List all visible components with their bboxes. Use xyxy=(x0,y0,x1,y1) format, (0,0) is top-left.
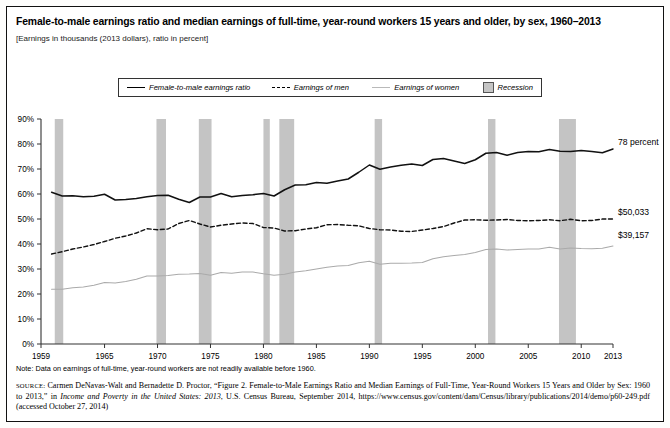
x-axis-tick-label: 2010 xyxy=(572,352,591,361)
x-axis-tick-label: 1995 xyxy=(413,352,432,361)
recession-band xyxy=(55,119,63,344)
x-axis-tick-label: 2013 xyxy=(604,352,623,361)
source-publication-title: Income and Poverty in the United States:… xyxy=(60,392,221,401)
source-keyword: SOURCE: xyxy=(16,382,45,389)
series-end-label: $50,033 xyxy=(618,207,649,217)
recession-band xyxy=(375,119,382,344)
y-axis-tick-label: 30% xyxy=(18,265,34,274)
series-line xyxy=(52,149,613,203)
x-axis-tick-label: 2000 xyxy=(466,352,485,361)
y-axis-tick-label: 40% xyxy=(18,240,34,249)
recession-band xyxy=(199,119,212,344)
x-axis-tick-label: 2005 xyxy=(519,352,538,361)
y-axis-tick-label: 60% xyxy=(18,190,34,199)
figure-page: Female-to-male earnings ratio and median… xyxy=(0,0,670,428)
x-axis-tick-label: 1975 xyxy=(201,352,220,361)
y-axis-tick-label: 10% xyxy=(18,315,34,324)
series-line xyxy=(52,246,613,289)
series-end-label: $39,157 xyxy=(618,230,649,240)
recession-band xyxy=(263,119,269,344)
x-axis-tick-label: 1980 xyxy=(254,352,273,361)
figure-note: Note: Data on earnings of full-time, yea… xyxy=(16,364,646,373)
recession-band xyxy=(559,119,576,344)
y-axis-tick-label: 90% xyxy=(18,115,34,124)
recession-band xyxy=(156,119,166,344)
y-axis-tick-label: 0% xyxy=(22,340,34,349)
y-axis-tick-label: 80% xyxy=(18,140,34,149)
y-axis-tick-label: 50% xyxy=(18,215,34,224)
x-axis-tick-label: 1965 xyxy=(95,352,114,361)
y-axis-tick-label: 70% xyxy=(18,165,34,174)
x-axis-tick-label: 1990 xyxy=(360,352,379,361)
figure-source: SOURCE: Carmen DeNavas-Walt and Bernadet… xyxy=(16,381,650,413)
y-axis-tick-label: 20% xyxy=(18,290,34,299)
series-end-label: 78 percent xyxy=(618,137,659,147)
x-axis-tick-label: 1959 xyxy=(32,352,51,361)
x-axis-tick-label: 1970 xyxy=(148,352,167,361)
x-axis-tick-label: 1985 xyxy=(307,352,326,361)
